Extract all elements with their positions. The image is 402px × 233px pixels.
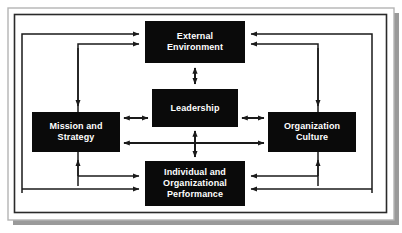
box-organization-culture (268, 112, 356, 152)
box-mission-and-strategy (32, 112, 120, 152)
organizational-model-diagram (0, 0, 402, 233)
box-external-environment (145, 21, 245, 63)
diagram-canvas: External Environment Leadership Mission … (0, 0, 402, 233)
box-leadership (152, 89, 238, 127)
box-individual-and-organizational-performance (145, 161, 245, 206)
